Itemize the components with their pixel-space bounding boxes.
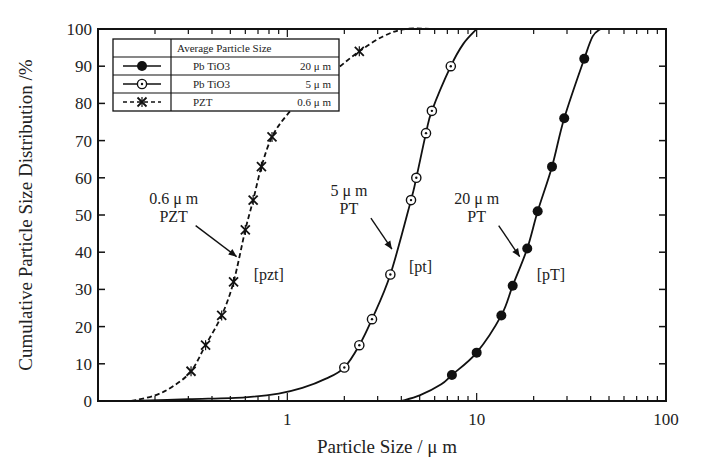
legend-material: Pb TiO3 <box>193 60 231 72</box>
y-tick-label: 0 <box>84 392 93 411</box>
filled-circle-marker <box>447 370 457 380</box>
annotation-text: 20 μ m <box>454 190 500 208</box>
arrow-head <box>228 249 236 257</box>
dotted-circle-dot <box>450 65 452 67</box>
series-pbtio3-20-m <box>401 29 600 401</box>
legend-material: Pb TiO3 <box>193 78 231 90</box>
y-tick-label: 100 <box>67 20 93 39</box>
filled-circle-marker <box>496 310 506 320</box>
annotation-pzt: 0.6 μ mPZT[pzt] <box>149 190 284 284</box>
particle-size-chart: Cumulative Particle Size Distribution /%… <box>0 0 701 474</box>
x-tick-label: 1 <box>283 410 292 429</box>
arrow-head <box>385 241 392 250</box>
y-tick-label: 80 <box>75 94 92 113</box>
annotation-pt: 5 μ mPT[pt] <box>330 182 432 276</box>
legend-material: PZT <box>193 96 213 108</box>
arrow-head <box>512 248 519 257</box>
y-tick-label: 50 <box>75 206 92 225</box>
x-marker <box>249 195 258 205</box>
annotation-text: 0.6 μ m <box>149 190 199 208</box>
x-tick-label: 10 <box>468 410 485 429</box>
dotted-circle-dot <box>343 366 345 368</box>
x-marker <box>229 277 238 287</box>
legend-size: 20 μ m <box>300 60 331 72</box>
x-marker <box>268 132 277 142</box>
filled-circle-marker <box>472 348 482 358</box>
dotted-circle-dot <box>425 132 427 134</box>
x-axis-label: Particle Size / μ m <box>317 436 457 457</box>
y-tick-label: 40 <box>75 243 92 262</box>
x-marker <box>355 46 364 56</box>
x-marker <box>257 162 266 172</box>
dotted-circle-dot <box>141 83 143 85</box>
x-marker <box>187 366 196 376</box>
dotted-circle-dot <box>431 110 433 112</box>
filled-circle-marker <box>137 61 147 71</box>
dotted-circle-dot <box>415 177 417 179</box>
annotation-pT: 20 μ mPT[pT] <box>454 190 565 284</box>
filled-circle-marker <box>579 54 589 64</box>
dotted-circle-dot <box>410 199 412 201</box>
filled-circle-marker <box>559 113 569 123</box>
legend-size: 0.6 μ m <box>297 96 331 108</box>
annotation-label: [pt] <box>409 258 432 276</box>
annotation-label: [pzt] <box>254 266 284 284</box>
y-axis-label: Cumulative Particle Size Distribution /% <box>15 59 36 371</box>
filled-circle-marker <box>533 206 543 216</box>
dotted-circle-dot <box>389 273 391 275</box>
annotation-text: PT <box>340 200 359 217</box>
x-marker <box>201 340 210 350</box>
annotation-text: 5 μ m <box>330 182 368 200</box>
legend-size: 5 μ m <box>306 78 332 90</box>
legend: Average Particle SizePb TiO320 μ mPb TiO… <box>113 39 339 111</box>
y-tick-label: 20 <box>75 318 92 337</box>
annotation-label: [pT] <box>537 266 565 284</box>
filled-circle-marker <box>508 281 518 291</box>
y-tick-label: 10 <box>75 355 92 374</box>
y-tick-label: 30 <box>75 280 92 299</box>
y-axis-title: Cumulative Particle Size Distribution /% <box>15 59 36 371</box>
x-marker <box>241 225 250 235</box>
annotation-text: PZT <box>159 208 188 225</box>
y-tick-label: 70 <box>75 132 92 151</box>
x-axis-title: Particle Size / μ m <box>317 436 457 457</box>
dotted-circle-dot <box>358 344 360 346</box>
filled-circle-marker <box>522 243 532 253</box>
legend-header: Average Particle Size <box>177 42 272 54</box>
series-line <box>401 29 600 401</box>
y-tick-label: 90 <box>75 57 92 76</box>
x-tick-label: 100 <box>653 410 679 429</box>
annotations: 0.6 μ mPZT[pzt]5 μ mPT[pt]20 μ mPT[pT] <box>149 182 565 283</box>
y-tick-label: 60 <box>75 169 92 188</box>
x-marker <box>217 310 226 320</box>
annotation-text: PT <box>467 208 486 225</box>
filled-circle-marker <box>547 162 557 172</box>
dotted-circle-dot <box>371 318 373 320</box>
